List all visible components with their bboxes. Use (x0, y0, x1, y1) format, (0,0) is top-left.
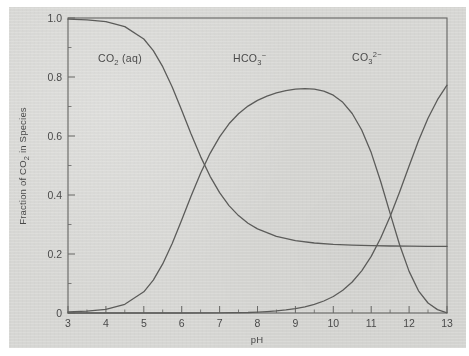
carbonate-speciation-chart: 3 4 5 6 7 8 9 10 11 12 13 0 0.2 0.4 0.6 … (0, 0, 469, 356)
y-axis-title: Fraction of CO2 in Species (17, 107, 31, 225)
x-tick-label: 11 (366, 317, 377, 329)
y-tick-label: 0 (56, 307, 62, 319)
x-tick-label: 3 (65, 317, 71, 329)
x-tick-label: 7 (217, 317, 223, 329)
y-tick-label: 0.2 (47, 248, 62, 260)
x-tick-label: 12 (403, 317, 415, 329)
x-tick-label: 4 (103, 317, 109, 329)
curve-label-co2-aq: CO2 (aq) (98, 52, 142, 67)
x-tick-label: 10 (327, 317, 339, 329)
y-axis-title-lead: Fraction of CO (17, 160, 28, 225)
y-tick-label: 0.4 (47, 189, 62, 201)
y-axis-title-tail: in Species (17, 107, 28, 156)
x-tick-label: 6 (179, 317, 185, 329)
figure-page: 3 4 5 6 7 8 9 10 11 12 13 0 0.2 0.4 0.6 … (0, 0, 469, 356)
curve-label-carbonate: CO32− (352, 50, 382, 65)
curve-carbonate (68, 85, 447, 313)
svg-text:Fraction of CO2 in Species: Fraction of CO2 in Species (17, 107, 31, 225)
x-tick-label: 5 (141, 317, 147, 329)
x-tick-label: 13 (441, 317, 453, 329)
y-tick-label: 1.0 (47, 12, 62, 24)
y-axis-tick-labels: 0 0.2 0.4 0.6 0.8 1.0 (47, 12, 62, 319)
x-tick-label: 8 (255, 317, 261, 329)
curve-bicarbonate (68, 89, 447, 313)
curve-label-bicarbonate: HCO3− (233, 51, 267, 66)
x-axis-title: pH (251, 334, 264, 345)
curve-annotations: CO2 (aq) HCO3− CO32− (98, 50, 382, 66)
x-axis-tick-labels: 3 4 5 6 7 8 9 10 11 12 13 (65, 317, 453, 329)
y-tick-label: 0.8 (47, 71, 62, 83)
y-tick-label: 0.6 (47, 130, 62, 142)
x-tick-label: 9 (292, 317, 298, 329)
